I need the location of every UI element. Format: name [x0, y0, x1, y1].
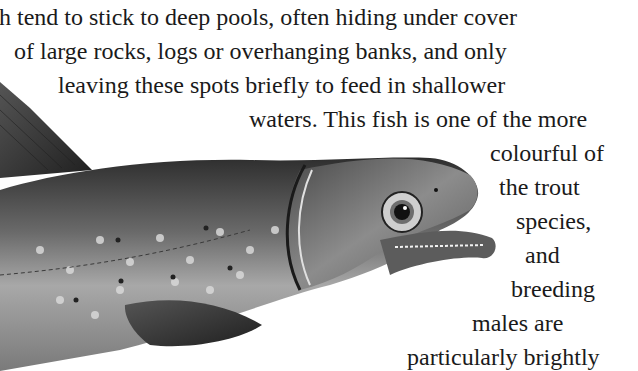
text-line: and: [525, 241, 560, 269]
text-line: particularly brightly: [407, 343, 600, 371]
text-line: species,: [516, 207, 591, 235]
text-line: h tend to stick to deep pools, often hid…: [0, 3, 517, 31]
document-page: h tend to stick to deep pools, often hid…: [0, 0, 638, 371]
text-line: waters. This fish is one of the more: [249, 105, 587, 133]
text-line: colourful of: [490, 139, 604, 167]
text-line: leaving these spots briefly to feed in s…: [58, 71, 505, 99]
text-line: the trout: [499, 173, 580, 201]
text-line: breeding: [511, 275, 595, 303]
text-line: males are: [472, 309, 563, 337]
text-line: of large rocks, logs or overhanging bank…: [14, 37, 507, 65]
